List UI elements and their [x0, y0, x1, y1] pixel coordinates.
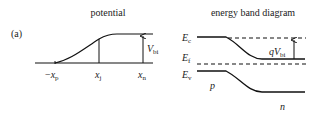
diagram-canvas: (a) potential −xp xj xn Vbi energy band …	[0, 0, 322, 118]
xp-label: −xp	[45, 69, 59, 82]
p-region-label: p	[209, 80, 215, 91]
ev-label: Ev	[181, 69, 192, 82]
potential-title: potential	[91, 7, 126, 18]
potential-curve	[55, 34, 153, 63]
conduction-band	[197, 37, 305, 59]
ef-label: Ef	[181, 52, 191, 65]
panel-label: (a)	[11, 28, 22, 40]
ec-label: Ec	[181, 32, 191, 45]
energy-band-title: energy band diagram	[211, 7, 295, 18]
pn-junction-diagram: (a) potential −xp xj xn Vbi energy band …	[0, 0, 322, 118]
qvbi-label: qVbi	[269, 46, 286, 59]
vbi-label: Vbi	[147, 43, 159, 56]
potential-panel: potential −xp xj xn Vbi	[35, 7, 159, 82]
n-region-label: n	[280, 101, 285, 112]
xn-label: xn	[137, 69, 146, 82]
xj-label: xj	[94, 69, 101, 82]
energy-band-panel: energy band diagram Ec Ef Ev qVbi p n	[181, 7, 306, 112]
